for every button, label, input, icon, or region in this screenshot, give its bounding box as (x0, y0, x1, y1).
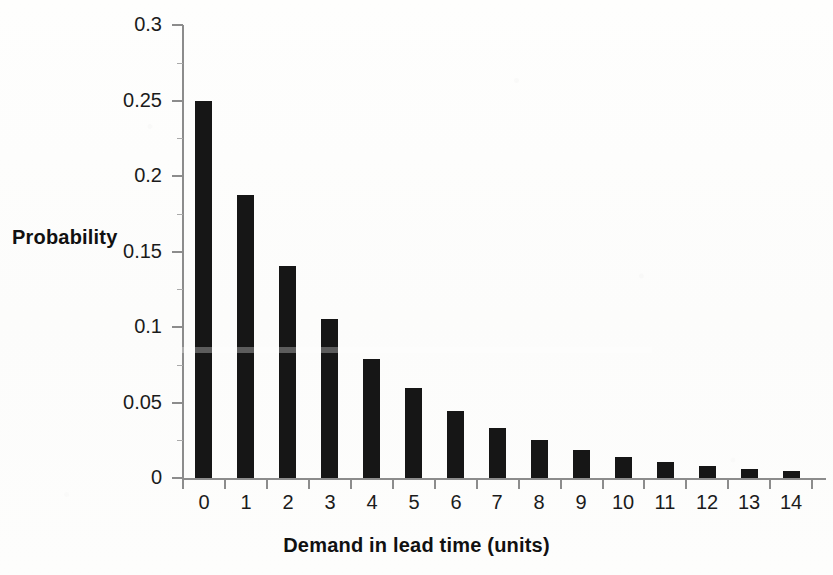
x-tick-label-7: 7 (475, 490, 519, 514)
x-tick-label-6: 6 (434, 490, 478, 514)
bar-8[interactable] (531, 440, 548, 478)
y-tick-label-0.25: 0.25 (106, 90, 162, 110)
y-tick-label-text: 0.2 (106, 165, 162, 185)
x-tick-1 (224, 479, 226, 489)
bars-container (182, 25, 826, 478)
x-tick-label-4: 4 (350, 490, 394, 514)
x-tick-4 (350, 479, 352, 489)
x-tick-10 (602, 479, 604, 489)
y-tick-label-text: 0.1 (106, 316, 162, 336)
x-tick-label-3: 3 (308, 490, 352, 514)
bar-14[interactable] (783, 471, 800, 478)
x-tick-5 (392, 479, 394, 489)
x-tick-8 (518, 479, 520, 489)
x-tick-label-8: 8 (517, 490, 561, 514)
y-tick-label-0: 0 (106, 467, 162, 487)
chart-page: Probability Demand in lead time (units) … (0, 0, 833, 575)
y-tick-label-0.15: 0.15 (106, 241, 162, 261)
x-tick-label-9: 9 (559, 490, 603, 514)
x-tick-label-1: 1 (224, 490, 268, 514)
y-tick-label-text: 0.05 (106, 392, 162, 412)
bar-1[interactable] (237, 195, 254, 478)
x-tick-0 (182, 479, 184, 489)
x-tick-end (811, 479, 813, 489)
x-tick-3 (308, 479, 310, 489)
x-tick-label-10: 10 (601, 490, 645, 514)
bar-12[interactable] (699, 466, 716, 478)
bar-0[interactable] (195, 101, 212, 479)
y-tick-label-0.2: 0.2 (106, 165, 162, 185)
y-tick-label-0.1: 0.1 (106, 316, 162, 336)
bar-13[interactable] (741, 469, 758, 478)
y-tick-label-text: 0.25 (106, 90, 162, 110)
x-tick-7 (476, 479, 478, 489)
bar-6[interactable] (447, 411, 464, 478)
x-tick-13 (727, 479, 729, 489)
x-axis-line (182, 478, 826, 480)
bar-10[interactable] (615, 457, 632, 478)
y-tick-label-0.05: 0.05 (106, 392, 162, 412)
x-tick-label-0: 0 (182, 490, 226, 514)
x-tick-14 (769, 479, 771, 489)
x-tick-11 (643, 479, 645, 489)
x-tick-label-13: 13 (727, 490, 771, 514)
bar-5[interactable] (405, 388, 422, 478)
x-tick-label-2: 2 (266, 490, 310, 514)
y-tick-label-text: 0.3 (106, 14, 162, 34)
y-tick-label-text: 0 (106, 467, 162, 487)
x-tick-label-14: 14 (769, 490, 813, 514)
bar-4[interactable] (363, 359, 380, 478)
bar-2[interactable] (279, 266, 296, 478)
bar-3[interactable] (321, 319, 338, 478)
y-tick-label-0.3: 0.3 (106, 14, 162, 34)
x-tick-label-5: 5 (392, 490, 436, 514)
bar-11[interactable] (657, 462, 674, 478)
x-axis-title: Demand in lead time (units) (0, 534, 833, 557)
x-tick-2 (266, 479, 268, 489)
y-tick-label-text: 0.15 (106, 241, 162, 261)
x-tick-6 (434, 479, 436, 489)
x-tick-12 (685, 479, 687, 489)
y-axis-title: Probability (12, 226, 118, 249)
bar-9[interactable] (573, 450, 590, 478)
x-tick-label-12: 12 (685, 490, 729, 514)
bar-7[interactable] (489, 428, 506, 478)
x-tick-9 (560, 479, 562, 489)
x-tick-label-11: 11 (643, 490, 687, 514)
